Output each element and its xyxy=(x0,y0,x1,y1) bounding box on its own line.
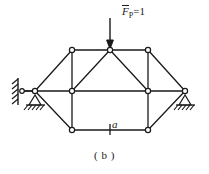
right-apex-node xyxy=(182,88,187,93)
truss-member xyxy=(35,91,72,130)
truss-member xyxy=(72,50,110,91)
load-symbol: F xyxy=(122,5,129,17)
top-right-node xyxy=(145,47,150,52)
top-left-node xyxy=(69,47,74,52)
mid-right-node xyxy=(145,88,150,93)
left-pin-support xyxy=(24,95,45,110)
load-arrow-group xyxy=(107,18,114,49)
load-label: FP=1 xyxy=(122,5,145,20)
truss-member xyxy=(35,50,72,91)
load-value: =1 xyxy=(133,5,145,17)
truss-nodes-group xyxy=(32,47,187,132)
figure-caption: ( b ) xyxy=(0,150,209,161)
right-pin-support xyxy=(174,95,195,110)
mid-left-node xyxy=(69,88,74,93)
supports-group xyxy=(12,78,195,110)
left-link-wall-pin xyxy=(20,89,25,94)
truss-member xyxy=(110,50,148,91)
bottom-left-node xyxy=(69,127,74,132)
left-apex-node xyxy=(32,88,37,93)
truss-members-group xyxy=(22,50,185,130)
truss-member xyxy=(148,50,185,91)
bottom-right-node xyxy=(145,127,150,132)
truss-diagram-svg xyxy=(0,0,209,174)
truss-member xyxy=(148,91,185,130)
top-apex-node xyxy=(107,47,112,52)
dimension-label-a: a xyxy=(112,119,118,130)
left-wall-support xyxy=(12,78,18,105)
